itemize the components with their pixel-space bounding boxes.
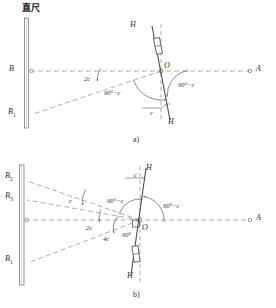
ruler-title-cn: 直尺 — [22, 4, 40, 13]
point-label-B3-b-sub: 3 — [10, 196, 13, 202]
point-label-O-b: O — [142, 224, 148, 232]
marker-A-b — [248, 218, 251, 221]
angle-label-2c-b: 2c — [86, 225, 92, 232]
angle-label-4c-b: 4c — [103, 236, 109, 243]
panel-a-graphics — [25, 18, 252, 128]
arc-90-minus-c-right-b — [144, 197, 165, 221]
point-label-B2-b-sub: 2 — [10, 176, 13, 182]
point-label-B1-b: B1 — [5, 255, 13, 265]
point-label-B3-b: B3 — [5, 192, 13, 202]
angle-label-90-minus-c-left-a: 90°−c — [104, 90, 120, 97]
diagram-svg — [0, 0, 276, 308]
arc-2c-a — [97, 71, 99, 81]
angle-label-c-lower-a: c — [150, 110, 153, 117]
ruler-a — [25, 18, 29, 128]
point-label-A-b: A — [256, 214, 261, 222]
arc-90-minus-c-left-b — [120, 199, 143, 212]
angle-label-c-top-b: c — [134, 172, 137, 179]
marker-A-a — [248, 69, 251, 72]
point-label-B2-b: B2 — [5, 172, 13, 182]
point-label-O-a: O — [164, 62, 170, 70]
panel-caption-b: b) — [133, 291, 140, 299]
angle-label-90-b: 90° — [122, 232, 131, 239]
point-label-H-top-a: H — [130, 21, 136, 29]
angle-label-90-minus-c-right-b: 90°−c — [163, 203, 179, 210]
panel-b-graphics — [20, 165, 252, 285]
point-label-B1-a: B1 — [8, 108, 16, 118]
angle-label-2c-a: 2c — [84, 76, 90, 83]
point-label-A-a: A — [256, 65, 261, 73]
marker-B0-b — [25, 218, 28, 221]
point-label-H-bottom-a: H — [168, 118, 174, 126]
angle-label-90-minus-c-left-b: 90°−c — [107, 198, 123, 205]
ruler-b — [20, 165, 25, 285]
point-label-B1-a-sub: 1 — [13, 112, 16, 118]
panel-caption-a: a) — [133, 136, 139, 144]
sightline-B1-b — [28, 220, 140, 263]
arc-90-minus-c-left-a — [135, 83, 167, 101]
arc-2c-b — [99, 212, 100, 222]
point-label-B-a: B — [9, 65, 14, 73]
marker-B-a — [30, 69, 33, 72]
point-label-H-top-b: H — [146, 164, 152, 172]
arc-c-b — [82, 192, 84, 205]
angle-label-90-minus-c-right-a: 90°−c — [178, 82, 194, 89]
point-label-B1-b-sub: 1 — [10, 259, 13, 265]
figure-canvas: 直尺 B B1 A O H H 2c 90°−c 90°−c c a) B2 B… — [0, 0, 276, 308]
point-label-H-bottom-b: H — [127, 272, 133, 280]
angle-label-c-b: c — [69, 198, 72, 205]
